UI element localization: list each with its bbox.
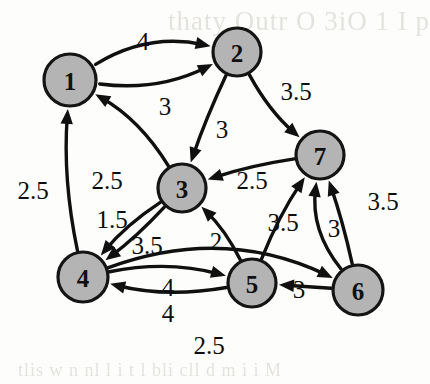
graph-node-label-4: 4 bbox=[77, 265, 90, 292]
graph-edge bbox=[100, 67, 207, 86]
edge-weight-label: 4 bbox=[162, 300, 175, 327]
graph-node-label-1: 1 bbox=[64, 68, 77, 95]
graph-node-label-6: 6 bbox=[352, 278, 365, 305]
graph-edge bbox=[96, 41, 204, 64]
edge-weight-label: 1.5 bbox=[96, 206, 127, 233]
edge-weight-label: 2.5 bbox=[193, 332, 224, 359]
edge-weight-label: 4 bbox=[137, 28, 150, 55]
edge-weight-label: 2.5 bbox=[17, 177, 48, 204]
edge-arrowhead bbox=[61, 109, 73, 124]
edge-arrowhead bbox=[308, 182, 320, 198]
edge-weight-label: 3 bbox=[216, 116, 229, 143]
edge-weight-label: 2.5 bbox=[91, 167, 122, 194]
graph-node-label-5: 5 bbox=[246, 271, 259, 298]
edge-weight-label: 2.5 bbox=[236, 167, 267, 194]
graph-node-label-3: 3 bbox=[176, 176, 189, 203]
edge-weight-label: 3.5 bbox=[267, 209, 298, 236]
graph-edge bbox=[66, 116, 77, 251]
edge-arrowhead bbox=[110, 281, 126, 293]
edge-weight-label: 3 bbox=[328, 215, 341, 242]
graph-node-label-7: 7 bbox=[314, 143, 327, 170]
edge-weight-label: 4 bbox=[162, 274, 175, 301]
edge-arrowhead bbox=[328, 181, 340, 197]
edge-arrowhead bbox=[190, 146, 202, 162]
edge-weight-label: 3 bbox=[293, 276, 306, 303]
edge-arrowhead bbox=[208, 169, 224, 181]
edge-weight-label: 3.5 bbox=[367, 188, 398, 215]
edge-weight-label: 3 bbox=[159, 93, 172, 120]
edge-arrowhead bbox=[291, 177, 305, 193]
edge-weight-label: 3.5 bbox=[280, 78, 311, 105]
graph-node-label-2: 2 bbox=[231, 40, 244, 67]
edge-weight-label: 2 bbox=[210, 228, 223, 255]
edge-arrowhead bbox=[195, 37, 211, 49]
edge-weight-label: 3.5 bbox=[131, 232, 162, 259]
edge-arrowhead bbox=[210, 266, 226, 278]
